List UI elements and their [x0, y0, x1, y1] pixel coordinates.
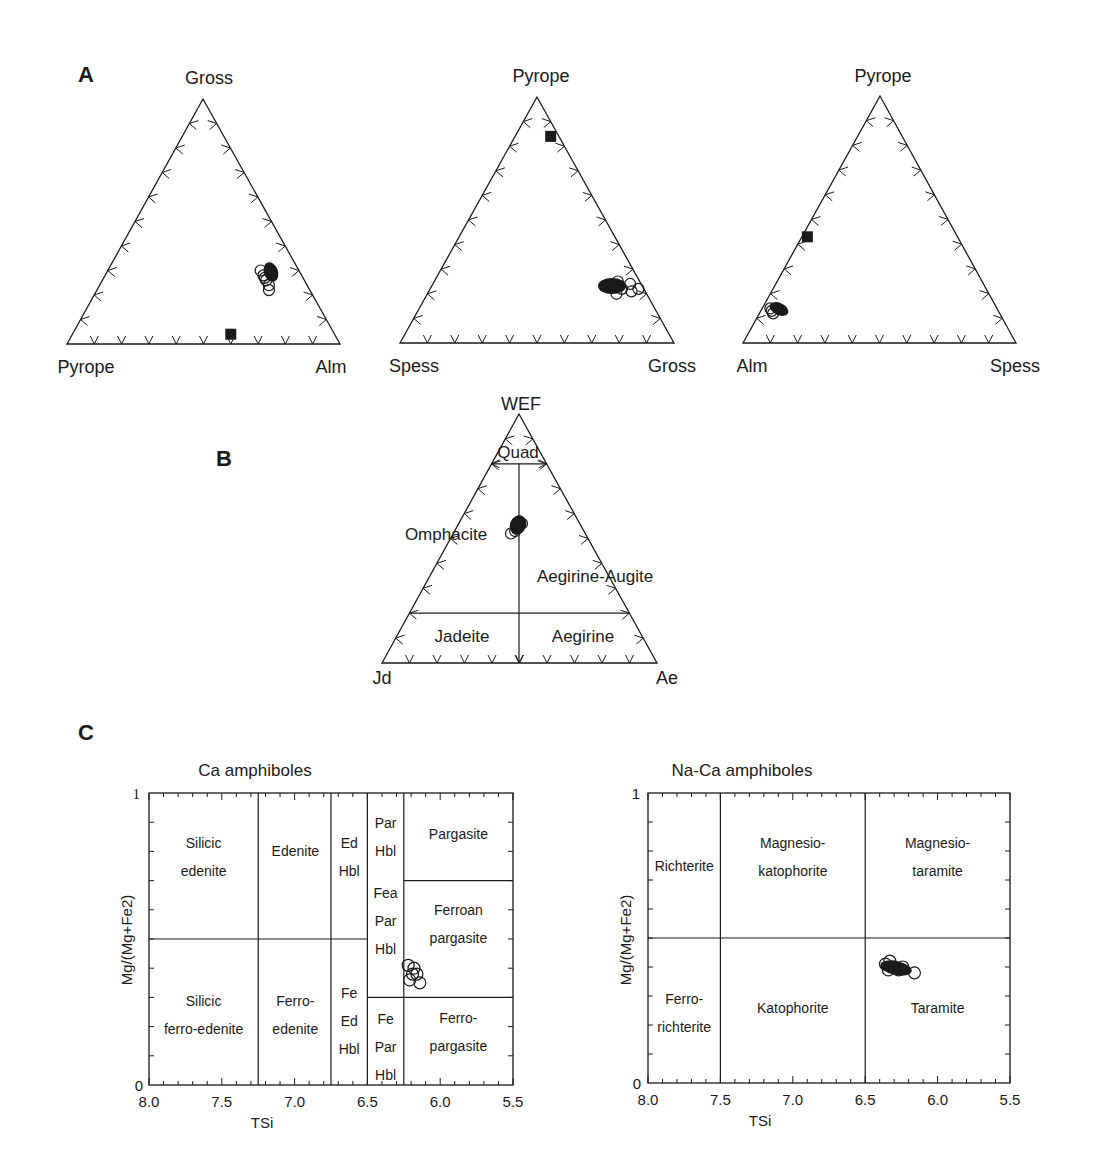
x-tick-label: 7.0	[782, 1091, 803, 1108]
x-tick-label: 5.5	[1000, 1091, 1021, 1108]
x-tick-label: 7.5	[710, 1091, 731, 1108]
tick-mark	[506, 335, 514, 343]
tick-mark	[588, 335, 596, 343]
x-tick-label: 7.5	[211, 1093, 232, 1110]
field-label-line: ferro-edenite	[164, 1021, 244, 1037]
y-axis-label: Mg/(Mg+Fe2)	[118, 895, 135, 985]
data-point-square	[225, 329, 236, 340]
vertex-label-top: WEF	[501, 394, 541, 414]
ternary-pyroxene-wef-jd-ae: WEF Jd Ae Quad Omphacite Aegirine-Augite…	[372, 394, 678, 688]
tick-mark	[254, 336, 262, 344]
field-label-line: Edenite	[272, 843, 320, 859]
data-point-circle	[626, 286, 637, 297]
tick-mark	[903, 335, 911, 343]
tick-mark	[985, 335, 993, 343]
field-label: Edenite	[272, 843, 320, 859]
tick-mark	[200, 336, 208, 344]
tick-mark	[560, 335, 568, 343]
tick-mark	[433, 655, 441, 663]
tick-mark	[488, 655, 496, 663]
plot-ca-amphiboles: Ca amphiboles TSi Mg/(Mg+Fe2) 1 0 8.07.5…	[118, 761, 523, 1131]
x-axis-label: TSi	[749, 1112, 772, 1129]
field-label-line: pargasite	[430, 1038, 488, 1054]
field-label: Katophorite	[757, 1000, 829, 1016]
tick-mark	[478, 335, 486, 343]
y-tick-1: 1	[632, 785, 640, 802]
field-label: Ferro-pargasite	[430, 1010, 488, 1054]
ternary-pyrope-alm-spess: Pyrope Alm Spess	[737, 66, 1041, 376]
tick-mark	[90, 336, 98, 344]
x-tick-label: 6.5	[357, 1093, 378, 1110]
triangle-frame	[400, 97, 674, 343]
tick-mark	[876, 335, 884, 343]
vertex-label-left: Spess	[389, 356, 439, 376]
tick-mark	[615, 335, 623, 343]
vertex-label-right: Spess	[990, 356, 1040, 376]
field-label-line: Pargasite	[429, 826, 488, 842]
y-tick-0: 0	[633, 1075, 641, 1092]
field-label-line: Hbl	[339, 1041, 360, 1057]
plot-na-ca-amphiboles: Na-Ca amphiboles TSi Mg/(Mg+Fe2) 1 0 8.0…	[617, 761, 1020, 1129]
y-axis-label: Mg/(Mg+Fe2)	[617, 895, 634, 985]
panel-label-b: B	[216, 446, 232, 471]
field-label: Taramite	[911, 1000, 965, 1016]
field-label-line: Silicic	[186, 835, 222, 851]
vertex-label-right: Alm	[316, 357, 347, 377]
vertex-label-left: Alm	[737, 356, 768, 376]
tick-mark	[281, 336, 289, 344]
field-label: Magnesio-katophorite	[758, 835, 827, 879]
y-tick-1: 1	[133, 786, 141, 802]
field-label-omphacite: Omphacite	[405, 525, 487, 544]
field-label-line: Ferro-	[276, 993, 314, 1009]
data-cluster	[598, 278, 626, 294]
x-tick-label: 8.0	[638, 1091, 659, 1108]
tick-mark	[598, 655, 606, 663]
tick-mark	[533, 335, 541, 343]
x-tick-label: 6.0	[927, 1091, 948, 1108]
field-label-aegirine: Aegirine	[552, 627, 614, 646]
field-label: FeEdHbl	[339, 985, 360, 1057]
field-label-line: edenite	[181, 863, 227, 879]
field-label: Silicicedenite	[181, 835, 227, 879]
tick-mark	[957, 335, 965, 343]
x-tick-label: 6.0	[430, 1093, 451, 1110]
field-label-line: Par	[375, 815, 397, 831]
tick-mark	[451, 335, 459, 343]
tick-mark	[930, 335, 938, 343]
tick-mark	[626, 655, 634, 663]
field-label: Pargasite	[429, 826, 488, 842]
field-label-line: Richterite	[655, 858, 714, 874]
field-label-quad: Quad	[497, 443, 539, 462]
field-label-line: Hbl	[339, 863, 360, 879]
ternary-pyrope-spess-gross: Pyrope Spess Gross	[389, 66, 696, 376]
field-label-line: pargasite	[430, 930, 488, 946]
ternary-gross-pyrope-alm: Gross Pyrope Alm	[57, 68, 346, 377]
tick-mark	[821, 335, 829, 343]
field-label-line: Par	[375, 913, 397, 929]
tick-mark	[571, 655, 579, 663]
panel-label-a: A	[78, 62, 94, 87]
field-label-line: Ed	[341, 1013, 358, 1029]
x-tick-label: 7.0	[284, 1093, 305, 1110]
data-point-circle	[633, 283, 644, 294]
field-label-line: Magnesio-	[905, 835, 971, 851]
field-label-line: Taramite	[911, 1000, 965, 1016]
field-label: FeParHbl	[375, 1011, 397, 1083]
data-point-square	[545, 131, 556, 142]
tick-mark	[423, 335, 431, 343]
tick-mark	[766, 335, 774, 343]
tick-mark	[406, 655, 414, 663]
data-point-square	[802, 231, 813, 242]
field-label-aegirine-augite: Aegirine-Augite	[537, 567, 653, 586]
vertex-label-left: Pyrope	[57, 357, 114, 377]
field-label: Magnesio-taramite	[905, 835, 971, 879]
field-label: ParHbl	[375, 815, 397, 859]
vertex-label-right: Ae	[656, 668, 678, 688]
field-label-line: Par	[375, 1039, 397, 1055]
field-label-line: Ferroan	[434, 902, 483, 918]
field-label-line: Ferro-	[439, 1010, 477, 1026]
field-label-line: taramite	[912, 863, 963, 879]
field-label-jadeite: Jadeite	[435, 627, 490, 646]
field-label: EdHbl	[339, 835, 360, 879]
triangle-frame	[67, 99, 340, 344]
